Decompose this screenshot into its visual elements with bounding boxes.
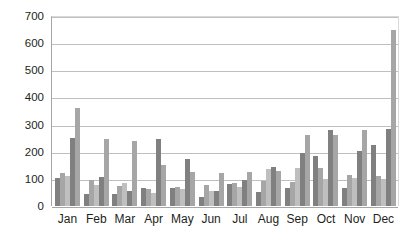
- bar-jan-s5: [75, 108, 80, 206]
- y-tick-label-600: 600: [0, 37, 44, 49]
- bar-group-may: [170, 17, 195, 206]
- x-tick-label-oct: Oct: [312, 208, 339, 232]
- x-tick-label-sep: Sep: [284, 208, 311, 232]
- bar-groups: [52, 17, 398, 206]
- y-tick-label-300: 300: [0, 119, 44, 131]
- x-axis-tick-labels: JanFebMarAprMayJunJulAugSepOctNovDec: [51, 208, 399, 232]
- bar-group-feb: [84, 17, 109, 206]
- bar-group-mar: [112, 17, 137, 206]
- y-axis-tick-labels: 0100200300400500600700: [0, 16, 46, 206]
- y-tick-label-0: 0: [0, 200, 44, 212]
- bar-aug-s5: [276, 171, 281, 206]
- x-tick-label-nov: Nov: [341, 208, 368, 232]
- bar-oct-s5: [333, 135, 338, 206]
- x-tick-label-jan: Jan: [54, 208, 81, 232]
- bar-may-s5: [190, 172, 195, 206]
- x-tick-label-apr: Apr: [140, 208, 167, 232]
- bar-group-oct: [313, 17, 338, 206]
- x-tick-label-mar: Mar: [111, 208, 138, 232]
- y-tick-label-500: 500: [0, 64, 44, 76]
- plot-area: [51, 16, 399, 206]
- y-tick-label-200: 200: [0, 146, 44, 158]
- x-tick-label-aug: Aug: [255, 208, 282, 232]
- y-tick-label-400: 400: [0, 91, 44, 103]
- bar-group-dec: [371, 17, 396, 206]
- bar-feb-s5: [104, 139, 109, 206]
- x-tick-label-dec: Dec: [370, 208, 397, 232]
- bar-jun-s5: [219, 173, 224, 206]
- bar-group-apr: [141, 17, 166, 206]
- x-tick-label-feb: Feb: [83, 208, 110, 232]
- x-tick-label-jul: Jul: [226, 208, 253, 232]
- y-tick-label-700: 700: [0, 10, 44, 22]
- bar-group-sep: [285, 17, 310, 206]
- bar-group-jan: [55, 17, 80, 206]
- x-tick-label-may: May: [169, 208, 196, 232]
- bar-group-nov: [342, 17, 367, 206]
- bar-dec-s5: [391, 30, 396, 206]
- bar-group-jun: [199, 17, 224, 206]
- bar-sep-s5: [305, 135, 310, 206]
- bar-apr-s5: [161, 165, 166, 206]
- bar-group-aug: [256, 17, 281, 206]
- bar-nov-s5: [362, 130, 367, 206]
- bar-chart: 0100200300400500600700 JanFebMarAprMayJu…: [0, 0, 417, 244]
- bar-jul-s5: [247, 172, 252, 206]
- bar-group-jul: [227, 17, 252, 206]
- bar-mar-s5: [132, 141, 137, 206]
- y-tick-label-100: 100: [0, 173, 44, 185]
- x-tick-label-jun: Jun: [198, 208, 225, 232]
